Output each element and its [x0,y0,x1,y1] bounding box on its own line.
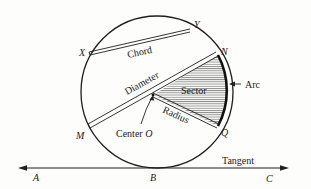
point-label-a: A [32,172,40,183]
point-label-b: B [150,172,156,183]
point-label-m: M [75,130,85,141]
tangent-right-arrowhead-icon [280,165,289,170]
tangent-label: Tangent [222,155,254,166]
circle-diagram: X Y N M Q A B C Chord Diameter Sector Ra… [0,0,311,189]
center-pointer-arrow [141,97,152,124]
point-label-q: Q [221,127,229,138]
center-label: Center O [116,128,152,139]
center-label-point: O [145,128,152,139]
point-label-x: X [78,47,86,58]
point-label-c: C [266,173,273,184]
sector-label: Sector [181,85,207,96]
diameter-label: Diameter [123,69,161,97]
tangent-left-arrowhead-icon [18,165,27,170]
point-label-n: N [220,46,229,57]
arc-label: Arc [245,79,261,90]
point-label-y: Y [194,19,201,30]
chord-label: Chord [126,44,153,60]
center-label-text: Center [116,128,145,139]
